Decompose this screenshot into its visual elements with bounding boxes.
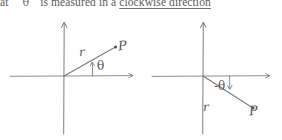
y-axis-line [203,23,204,134]
angle-theta-label: -θ [214,80,225,92]
ray-r-line [64,47,115,76]
negative-angle-diagram: P r -θ [141,0,282,140]
x-axis-line [10,76,132,77]
ray-r-label: r [79,46,86,58]
figure-page: atθis measured in a clockwise direction [0,0,282,140]
positive-angle-diagram: P r θ [0,0,141,140]
x-axis-line [152,76,269,77]
ray-r-label: r [203,101,210,113]
ray-r-line [203,76,253,108]
point-p-label: P [248,104,258,118]
angle-theta-label: θ [97,60,104,72]
point-p-label: P [117,39,127,53]
point-p-marker [114,45,117,48]
